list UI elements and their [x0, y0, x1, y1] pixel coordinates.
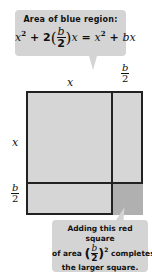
fraction: b2: [57, 26, 66, 49]
top-x-label: x: [67, 76, 73, 89]
left-x-label: x: [12, 136, 18, 149]
x-squared-region: [26, 91, 113, 184]
area-equation: x2 + 2(b2)x = x2 + bx: [15, 26, 126, 49]
completion-callout: Adding this red square of area (b2)2 com…: [52, 220, 148, 272]
callout-heading: Area of blue region:: [15, 15, 126, 24]
top-b-half-label: b 2: [121, 63, 129, 84]
callout-pointer-top: [89, 56, 97, 70]
right-rectangle-region: [111, 91, 143, 184]
small-square-region: [113, 184, 143, 215]
bottom-rectangle-region: [26, 182, 113, 215]
left-b-half-label: b 2: [11, 183, 19, 204]
completed-square-diagram: [26, 91, 143, 217]
area-callout: Area of blue region: x2 + 2(b2)x = x2 + …: [15, 10, 126, 56]
